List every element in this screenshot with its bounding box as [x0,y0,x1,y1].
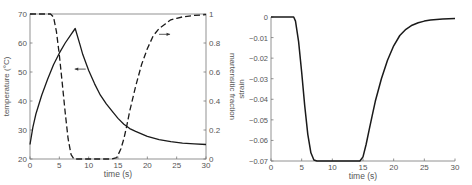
y-tick-label: −0.05 [249,116,268,125]
y-tick-label: 50 [18,68,27,77]
x-tick-label: 0 [28,161,33,170]
y-tick-label: 40 [18,97,27,106]
strain-chart: 0510152025300−0.01−0.02−0.03−0.04−0.05−0… [237,13,460,181]
temperature-fraction-chart: 05101520253020304050607000.20.40.60.81ti… [2,10,237,179]
x-tick-label: 20 [389,163,398,172]
x-axis-label: time (s) [104,169,133,179]
x-tick-label: 10 [84,161,93,170]
y-tick-label: 20 [18,155,27,164]
y-right-tick-label: 0.8 [209,39,221,48]
y-right-tick-label: 0 [209,155,214,164]
y-right-tick-label: 1 [209,10,214,19]
y-right-axis-label: martensitic fraction [228,53,237,120]
y-tick-label: −0.07 [249,157,268,166]
y-tick-label: 70 [18,10,27,19]
y-right-tick-label: 0.2 [209,126,221,135]
x-tick-label: 0 [269,163,274,172]
x-tick-label: 30 [451,163,460,172]
y-tick-label: 30 [18,126,27,135]
y-tick-label: 0 [264,13,268,22]
arrow-right-icon [167,33,171,36]
plot-frame [30,14,206,159]
y-tick-label: −0.06 [249,136,268,145]
x-tick-label: 10 [328,163,337,172]
y-right-tick-label: 0.6 [209,68,221,77]
x-tick-label: 25 [420,163,429,172]
x-tick-label: 5 [299,163,304,172]
temperature-line [30,29,206,145]
arrow-left-icon [75,68,79,71]
fraction-line [30,14,206,159]
x-axis-label: time (s) [349,171,378,181]
x-tick-label: 25 [172,161,181,170]
y-tick-label: −0.02 [249,54,268,63]
y-axis-label: temperature (°C) [2,56,11,116]
figure: 05101520253020304050607000.20.40.60.81ti… [0,0,472,185]
y-axis-label: strain [237,79,246,99]
y-right-tick-label: 0.4 [209,97,221,106]
x-tick-label: 5 [57,161,62,170]
strain-line [271,17,455,161]
x-tick-label: 20 [143,161,152,170]
y-tick-label: 60 [18,39,27,48]
y-tick-label: −0.01 [249,34,268,43]
y-tick-label: −0.04 [249,95,268,104]
y-tick-label: −0.03 [249,75,268,84]
